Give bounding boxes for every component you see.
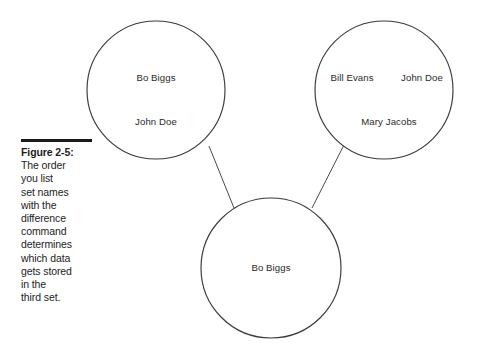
set-circle-left [87,21,225,159]
member-label: Bo Biggs [251,262,290,273]
caption-line: set names [21,186,95,199]
caption-line: third set. [21,291,95,304]
caption-line: with the [21,199,95,212]
connector-left-to-result [209,146,234,208]
figure-caption: Figure 2-5: The order you list set names… [21,139,95,304]
caption-rule-divider [21,139,92,142]
caption-line: command [21,225,95,238]
figure-container: Bo Biggs John Doe Bill Evans John Doe Ma… [0,0,477,357]
member-label: John Doe [135,116,177,127]
member-label: John Doe [401,72,443,83]
caption-line: The order [21,159,95,172]
member-label: Mary Jacobs [361,116,417,127]
set-circle-right [315,21,453,159]
figure-label: Figure 2-5: [21,146,95,159]
member-label: Bo Biggs [136,72,175,83]
caption-line: gets stored [21,265,95,278]
figure-caption-text: The order you list set names with the di… [21,159,95,304]
caption-line: in the [21,278,95,291]
caption-line: determines [21,238,95,251]
caption-line: difference [21,212,95,225]
caption-line: you list [21,172,95,185]
connector-right-to-result [312,137,348,208]
member-label: Bill Evans [330,72,373,83]
caption-line: which data [21,252,95,265]
